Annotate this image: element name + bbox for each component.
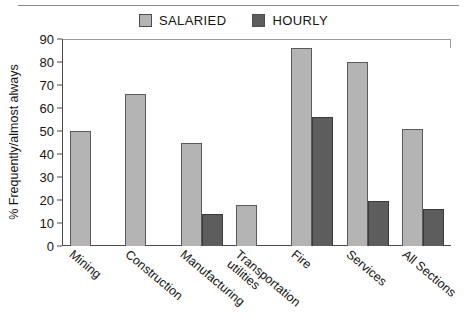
- y-axis-tick-label: 40: [40, 148, 54, 161]
- bar-group: [118, 39, 173, 246]
- bar-hourly: [423, 209, 444, 246]
- bar-salaried: [70, 131, 91, 246]
- bar-salaried: [347, 62, 368, 246]
- x-axis-label-line: All Sections: [399, 247, 458, 300]
- y-axis-tick-label: 30: [40, 171, 54, 184]
- y-axis-tick: 10: [40, 217, 62, 230]
- y-axis-title: % Frequently/almost always: [6, 42, 22, 242]
- y-axis-tick: 30: [40, 171, 62, 184]
- x-axis-labels: MiningConstructionManufacturingTransport…: [63, 248, 451, 328]
- y-axis-tick: 80: [40, 56, 62, 69]
- y-axis-tick: 40: [40, 148, 62, 161]
- y-axis-tick: 50: [40, 125, 62, 138]
- bar-group: [396, 39, 451, 246]
- bar-hourly: [312, 117, 333, 246]
- top-scan-rule: [18, 5, 459, 6]
- bar-salaried: [181, 143, 202, 247]
- y-axis-tick: 0: [47, 240, 62, 253]
- y-axis-tick-mark: [57, 154, 62, 155]
- bar-group: [229, 39, 284, 246]
- legend-label-hourly: HOURLY: [272, 14, 328, 27]
- x-axis-label-line: Mining: [67, 247, 104, 281]
- plot-area: 9080706050403020100: [62, 39, 451, 246]
- bar-groups: [63, 39, 451, 246]
- y-axis-tick-mark: [57, 62, 62, 63]
- legend-swatch-hourly: [252, 14, 265, 27]
- bar-salaried: [125, 94, 146, 246]
- y-axis-tick-mark: [57, 223, 62, 224]
- bar-group: [63, 39, 118, 246]
- y-axis-tick-label: 10: [40, 217, 54, 230]
- legend-item-hourly: HOURLY: [252, 14, 328, 27]
- bar-salaried: [236, 205, 257, 246]
- legend-item-salaried: SALARIED: [139, 14, 227, 27]
- y-axis-tick-label: 60: [40, 102, 54, 115]
- bar-salaried: [402, 129, 423, 246]
- bar-chart-figure: SALARIED HOURLY % Frequently/almost alwa…: [0, 0, 467, 329]
- y-axis-tick-mark: [57, 85, 62, 86]
- y-axis-tick-label: 70: [40, 79, 54, 92]
- y-axis-tick-mark: [57, 246, 62, 247]
- y-axis-tick: 20: [40, 194, 62, 207]
- y-axis-tick: 90: [40, 33, 62, 46]
- y-axis-tick: 70: [40, 79, 62, 92]
- y-axis-tick: 60: [40, 102, 62, 115]
- bar-group: [340, 39, 395, 246]
- y-axis-tick-mark: [57, 200, 62, 201]
- bar-group: [174, 39, 229, 246]
- y-axis-tick-label: 0: [47, 240, 54, 253]
- y-axis-tick-mark: [57, 131, 62, 132]
- y-axis-tick-label: 50: [40, 125, 54, 138]
- y-axis-tick-label: 80: [40, 56, 54, 69]
- x-axis-label-line: Services: [344, 247, 390, 289]
- y-axis-tick-mark: [57, 39, 62, 40]
- legend-swatch-salaried: [139, 14, 152, 27]
- bar-salaried: [291, 48, 312, 246]
- legend-label-salaried: SALARIED: [159, 14, 227, 27]
- bar-hourly: [202, 214, 223, 246]
- x-axis-label-line: Fire: [289, 247, 314, 272]
- bar-hourly: [368, 201, 389, 246]
- chart-legend: SALARIED HOURLY: [0, 14, 467, 27]
- y-axis-tick-label: 90: [40, 33, 54, 46]
- y-axis-tick-mark: [57, 108, 62, 109]
- y-axis-tick-mark: [57, 177, 62, 178]
- bar-group: [285, 39, 340, 246]
- y-axis-tick-label: 20: [40, 194, 54, 207]
